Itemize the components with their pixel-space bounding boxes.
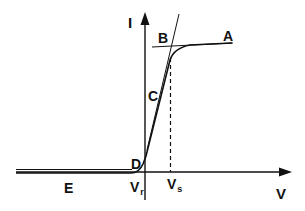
voltage-axis-label: V xyxy=(276,186,286,201)
iv-curve-diagram: I V A B C D E Vr Vs xyxy=(0,0,305,211)
curve-main xyxy=(16,43,232,173)
current-axis-arrow-icon xyxy=(141,12,150,25)
vr-subscript: r xyxy=(140,187,144,197)
vs-subscript: s xyxy=(177,184,182,194)
point-label-c: C xyxy=(148,89,158,103)
point-label-b: B xyxy=(158,31,168,45)
point-label-a: A xyxy=(223,29,233,43)
vs-tick-label: Vs xyxy=(167,177,182,191)
vr-tick-label: Vr xyxy=(130,180,144,194)
point-label-e: E xyxy=(64,181,73,195)
point-label-d: D xyxy=(131,157,141,171)
vr-main: V xyxy=(130,179,139,195)
voltage-axis-arrow-icon xyxy=(279,168,292,177)
current-axis-label: I xyxy=(128,15,132,30)
diagram-graphics xyxy=(0,0,305,211)
vs-main: V xyxy=(167,176,176,192)
